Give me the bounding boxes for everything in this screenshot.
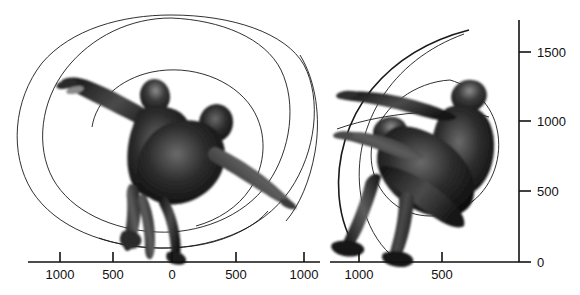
x-tick-label-front-2: 0 xyxy=(168,267,175,282)
figure-canvas: 1000 500 0 500 1000 xyxy=(0,0,580,295)
x-tick-label-side-1: 500 xyxy=(431,267,453,282)
y-tick-label-side-0: 0 xyxy=(537,255,544,270)
x-tick-label-side-0: 1000 xyxy=(345,267,374,282)
y-tick-label-side-1500: 1500 xyxy=(537,45,566,60)
x-tick-label-front-3: 500 xyxy=(225,267,247,282)
y-tick-label-side-1000: 1000 xyxy=(537,114,566,129)
x-tick-label-front-4: 1000 xyxy=(290,267,319,282)
y-tick-label-side-500: 500 xyxy=(537,184,559,199)
discus-throw-figure: 1000 500 0 500 1000 xyxy=(0,0,580,295)
x-tick-label-front-0: 1000 xyxy=(46,267,75,282)
x-tick-label-front-1: 500 xyxy=(102,267,124,282)
